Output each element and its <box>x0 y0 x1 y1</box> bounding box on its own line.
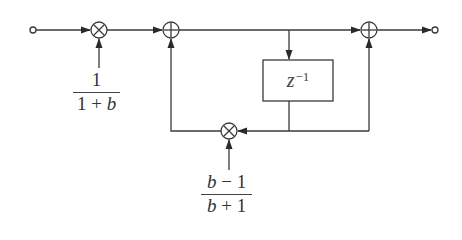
edge-mult-fb-to-adder1 <box>171 39 221 131</box>
delay-label: z−1 <box>263 60 333 101</box>
multiplier-input-icon <box>91 22 107 38</box>
gain-input-fraction: 1 1 + b <box>73 70 120 114</box>
gain-input-numerator: 1 <box>86 70 108 90</box>
input-terminal <box>30 27 36 33</box>
delay-exponent: −1 <box>295 69 309 85</box>
gain-feedback-numerator: b − 1 <box>201 172 252 192</box>
delay-base: z <box>287 69 295 92</box>
multiplier-feedback-icon <box>221 123 237 139</box>
gain-input-denominator: 1 + b <box>73 94 120 114</box>
output-terminal <box>432 27 438 33</box>
adder-2-icon <box>361 22 377 38</box>
gain-feedback-fraction: b − 1 b + 1 <box>201 172 252 216</box>
adder-1-icon <box>163 22 179 38</box>
gain-feedback-denominator: b + 1 <box>203 196 250 216</box>
